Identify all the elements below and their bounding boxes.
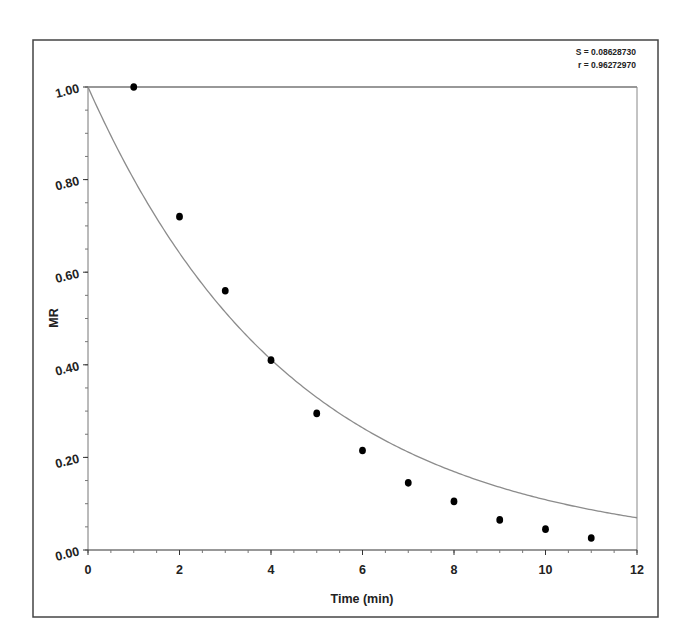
x-tick-label: 8 (451, 563, 458, 577)
chart-figure: S = 0.08628730 r = 0.96272970 0.000.200.… (0, 0, 685, 643)
data-point (222, 287, 229, 295)
x-axis-title: Time (min) (331, 592, 394, 606)
stat-s-label: S = 0.08628730 (576, 47, 637, 57)
data-point (405, 479, 412, 487)
chart-canvas: S = 0.08628730 r = 0.96272970 0.000.200.… (0, 0, 685, 643)
y-tick-label: 0.20 (54, 452, 81, 471)
y-tick-label: 0.00 (54, 544, 81, 563)
data-point (268, 356, 275, 364)
data-point (130, 83, 137, 91)
y-tick-label: 0.40 (54, 359, 81, 378)
y-tick-label: 1.00 (54, 81, 81, 100)
data-point (359, 447, 366, 455)
data-point (176, 213, 183, 221)
y-tick-label: 0.60 (54, 267, 81, 286)
y-axis-title: MR (47, 308, 61, 327)
x-tick-label: 6 (359, 563, 366, 577)
x-tick-label: 2 (176, 563, 183, 577)
stat-r-label: r = 0.96272970 (578, 60, 636, 70)
x-axis: 024681012 (85, 550, 644, 577)
outer-frame (33, 40, 658, 617)
data-point (542, 525, 549, 533)
data-point (588, 534, 595, 542)
x-tick-label: 4 (268, 563, 275, 577)
x-tick-label: 12 (630, 563, 644, 577)
x-tick-label: 0 (85, 563, 92, 577)
data-points (130, 83, 594, 542)
plot-area (88, 87, 637, 550)
data-point (451, 498, 458, 506)
data-point (313, 410, 320, 418)
x-tick-label: 10 (539, 563, 553, 577)
y-tick-label: 0.80 (54, 174, 81, 193)
data-point (496, 516, 503, 524)
